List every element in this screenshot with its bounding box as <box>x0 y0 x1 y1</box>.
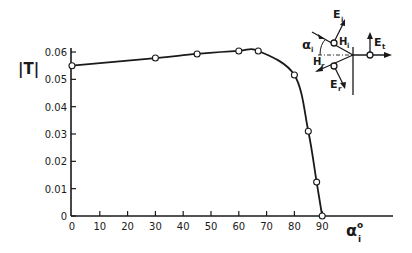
alpha-arc <box>320 39 326 55</box>
y-tick-label: 0 <box>61 211 67 222</box>
x-tick-label: 70 <box>260 221 273 232</box>
data-point <box>255 48 261 54</box>
svg-text:α: α <box>302 37 311 52</box>
data-point <box>305 128 311 134</box>
data-point <box>152 55 158 61</box>
data-point <box>291 72 297 78</box>
svg-text:o: o <box>357 220 363 230</box>
x-axis-title: α i o <box>346 220 363 244</box>
svg-text:α: α <box>346 221 357 240</box>
data-point <box>194 51 200 57</box>
y-tick-label: 0.04 <box>45 102 67 113</box>
svg-text:i: i <box>341 16 343 24</box>
x-tick-label: 0 <box>69 221 75 232</box>
data-curve <box>72 49 322 216</box>
data-point <box>314 179 320 185</box>
x-tick-label: 80 <box>288 221 301 232</box>
x-tick-label: 10 <box>93 221 106 232</box>
Hi-marker <box>331 40 337 46</box>
svg-text:r: r <box>338 85 342 93</box>
Hr-marker <box>331 63 337 69</box>
x-tick-label: 90 <box>316 221 329 232</box>
x-tick-label: 50 <box>205 221 218 232</box>
x-tick-label: 60 <box>232 221 245 232</box>
svg-text:E: E <box>330 78 338 91</box>
Ht-marker <box>367 52 373 58</box>
y-axis-title: |T| <box>18 60 39 79</box>
svg-text:E: E <box>333 8 341 21</box>
svg-text:i: i <box>311 46 313 54</box>
x-ticks: 0102030405060708090 <box>69 211 329 232</box>
data-point <box>319 213 325 219</box>
Et-arrowhead <box>367 32 373 39</box>
svg-text:i: i <box>358 234 361 244</box>
chart: 00.010.020.030.040.050.06 01020304050607… <box>0 0 412 253</box>
axes <box>71 48 393 216</box>
inset-diagram <box>312 19 392 95</box>
y-tick-label: 0.06 <box>45 47 67 58</box>
transmitted-arrowhead <box>384 52 392 58</box>
y-tick-label: 0.01 <box>45 184 67 195</box>
data-markers <box>69 48 325 219</box>
y-tick-label: 0.02 <box>45 156 67 167</box>
data-point <box>69 63 75 69</box>
svg-text:r: r <box>321 62 325 70</box>
x-tick-label: 30 <box>149 221 162 232</box>
y-tick-label: 0.05 <box>45 74 67 85</box>
svg-text:E: E <box>374 36 382 49</box>
x-tick-label: 20 <box>121 221 134 232</box>
data-point <box>236 48 242 54</box>
svg-text:t: t <box>382 43 386 51</box>
y-tick-label: 0.03 <box>45 129 67 140</box>
svg-text:i: i <box>347 42 349 50</box>
x-tick-label: 40 <box>177 221 190 232</box>
